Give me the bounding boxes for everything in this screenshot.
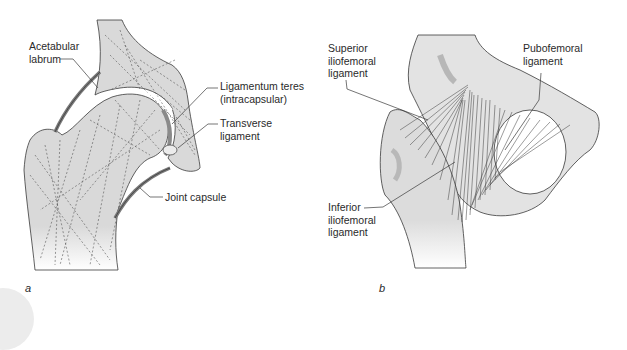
label-inferior-iliofemoral: Inferior iliofemoral ligament: [328, 201, 376, 239]
panel-label-b: b: [379, 282, 385, 294]
panel-label-a: a: [25, 282, 31, 294]
label-joint-capsule: Joint capsule: [165, 191, 226, 204]
label-superior-iliofemoral: Superior iliofemoral ligament: [328, 42, 376, 80]
label-transverse-ligament: Transverse ligament: [220, 117, 272, 142]
label-pubofemoral: Pubofemoral ligament: [523, 42, 583, 67]
label-acetabular-labrum: Acetabular labrum: [29, 40, 79, 65]
label-ligamentum-teres: Ligamentum teres (intracapsular): [220, 80, 304, 105]
